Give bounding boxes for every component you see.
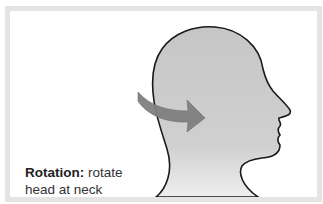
caption-line1: rotate [84,165,122,180]
caption-line2: head at neck [25,182,102,197]
caption-term: Rotation: [25,165,84,180]
caption: Rotation: rotate head at neck [25,164,123,198]
figure-frame: Rotation: rotate head at neck [5,6,322,202]
